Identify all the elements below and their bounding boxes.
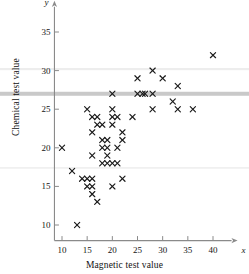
y-tick-label: 10: [32, 220, 50, 230]
data-point: [160, 76, 165, 81]
y-axis-symbol: y: [44, 0, 48, 7]
data-point: [130, 114, 135, 119]
data-point: [115, 161, 120, 166]
y-tick-label: 15: [32, 181, 50, 191]
y-tick-label: 25: [32, 104, 50, 114]
x-tick-label: 25: [133, 245, 142, 255]
data-point: [90, 153, 95, 158]
data-point: [100, 137, 105, 142]
axis-ticks-layer: [54, 32, 213, 241]
data-point: [120, 137, 125, 142]
y-axis-title: Chemical test value: [11, 37, 21, 157]
data-point: [170, 99, 175, 104]
data-point: [75, 222, 80, 227]
data-point: [120, 176, 125, 181]
data-point: [59, 145, 64, 150]
x-tick-label: 30: [158, 245, 167, 255]
data-point: [85, 184, 90, 189]
x-tick-label: 20: [108, 245, 117, 255]
data-point: [105, 145, 110, 150]
data-point: [150, 107, 155, 112]
x-axis-title: Magnetic test value: [0, 260, 249, 270]
data-points-layer: [59, 53, 215, 228]
data-point: [110, 107, 115, 112]
data-point: [90, 114, 95, 119]
data-point: [100, 145, 105, 150]
chart-canvas: [0, 0, 249, 274]
plot-area: [0, 0, 249, 274]
data-point: [175, 107, 180, 112]
x-tick-label: 35: [183, 245, 192, 255]
data-point: [135, 76, 140, 81]
data-point: [95, 114, 100, 119]
x-tick-label: 10: [58, 245, 67, 255]
data-point: [110, 161, 115, 166]
data-point: [69, 168, 74, 173]
data-point: [90, 130, 95, 135]
reference-band: [0, 167, 249, 169]
data-point: [115, 145, 120, 150]
data-point: [105, 137, 110, 142]
data-point: [115, 114, 120, 119]
x-tick-label: 40: [209, 245, 218, 255]
x-axis-arrow: [231, 238, 237, 243]
data-point: [90, 184, 95, 189]
data-point: [110, 114, 115, 119]
data-point: [110, 184, 115, 189]
data-point: [85, 176, 90, 181]
data-point: [120, 130, 125, 135]
data-point: [105, 161, 110, 166]
reference-band: [0, 92, 249, 96]
y-tick-label: 20: [32, 143, 50, 153]
data-point: [95, 122, 100, 127]
data-point: [80, 176, 85, 181]
data-point: [95, 199, 100, 204]
y-axis-arrow: [52, 1, 57, 7]
x-axis-symbol: x: [242, 245, 246, 255]
data-point: [90, 192, 95, 197]
y-tick-label: 30: [32, 66, 50, 76]
data-point: [190, 107, 195, 112]
data-point: [175, 83, 180, 88]
y-tick-label: 35: [32, 27, 50, 37]
data-point: [110, 122, 115, 127]
data-point: [105, 153, 110, 158]
data-point: [100, 122, 105, 127]
reference-bands-layer: [0, 68, 249, 169]
x-tick-label: 15: [83, 245, 92, 255]
data-point: [90, 176, 95, 181]
axes-layer: [52, 1, 238, 243]
data-point: [85, 107, 90, 112]
data-point: [100, 161, 105, 166]
scatter-chart: 10152025303540101520253035 x y Magnetic …: [0, 0, 249, 274]
data-point: [210, 53, 215, 58]
